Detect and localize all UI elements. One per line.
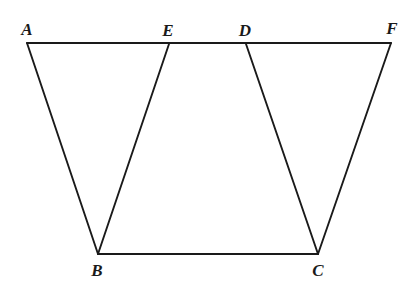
vertex-label-E: E [162,22,173,39]
segment-EB [98,44,169,254]
geometry-figure: A E D F B C [0,0,404,289]
vertex-label-C: C [312,262,323,279]
vertex-label-D: D [239,22,251,39]
vertex-label-F: F [386,20,397,37]
segment-group [27,43,391,254]
vertex-label-A: A [21,21,32,38]
segment-FC [318,43,391,254]
segment-AB [27,43,98,254]
figure-canvas [0,0,404,289]
vertex-label-B: B [91,262,102,279]
segment-DC [246,44,318,254]
